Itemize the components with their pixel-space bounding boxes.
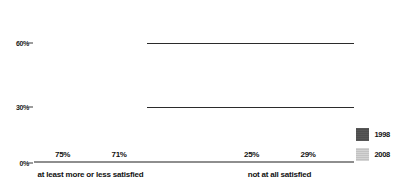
legend-item-1998[interactable]: 1998: [356, 126, 391, 142]
y-tick-label-0: 0%: [19, 160, 29, 167]
category-label-at-least-more-or-less-satisfied: at least more or less satisfied: [34, 170, 147, 179]
gridline-30: [147, 107, 354, 108]
legend: 1998 2008: [356, 126, 391, 166]
legend-swatch-icon-1998: [356, 128, 369, 141]
bar-value-label: 75%: [34, 150, 91, 159]
bar-value-label: 29%: [280, 150, 336, 159]
category-label-not-at-all-satisfied: not at all satisfied: [223, 170, 336, 179]
bar-chart: 60% 30% 0% 75% 71% 25% 29% at: [0, 0, 394, 195]
y-tick-label-30: 30%: [16, 104, 29, 111]
bar-value-label: 71%: [91, 150, 147, 159]
legend-label-2008: 2008: [375, 150, 391, 159]
legend-label-1998: 1998: [375, 130, 391, 139]
plot-area: 60% 30% 0% 75% 71% 25% 29%: [34, 8, 354, 163]
y-tick-label-60: 60%: [16, 40, 29, 47]
legend-item-2008[interactable]: 2008: [356, 146, 391, 162]
x-axis-baseline: [34, 161, 354, 163]
gridline-60: [147, 43, 354, 44]
bar-value-label: 25%: [223, 150, 280, 159]
legend-swatch-icon-2008: [356, 148, 369, 161]
